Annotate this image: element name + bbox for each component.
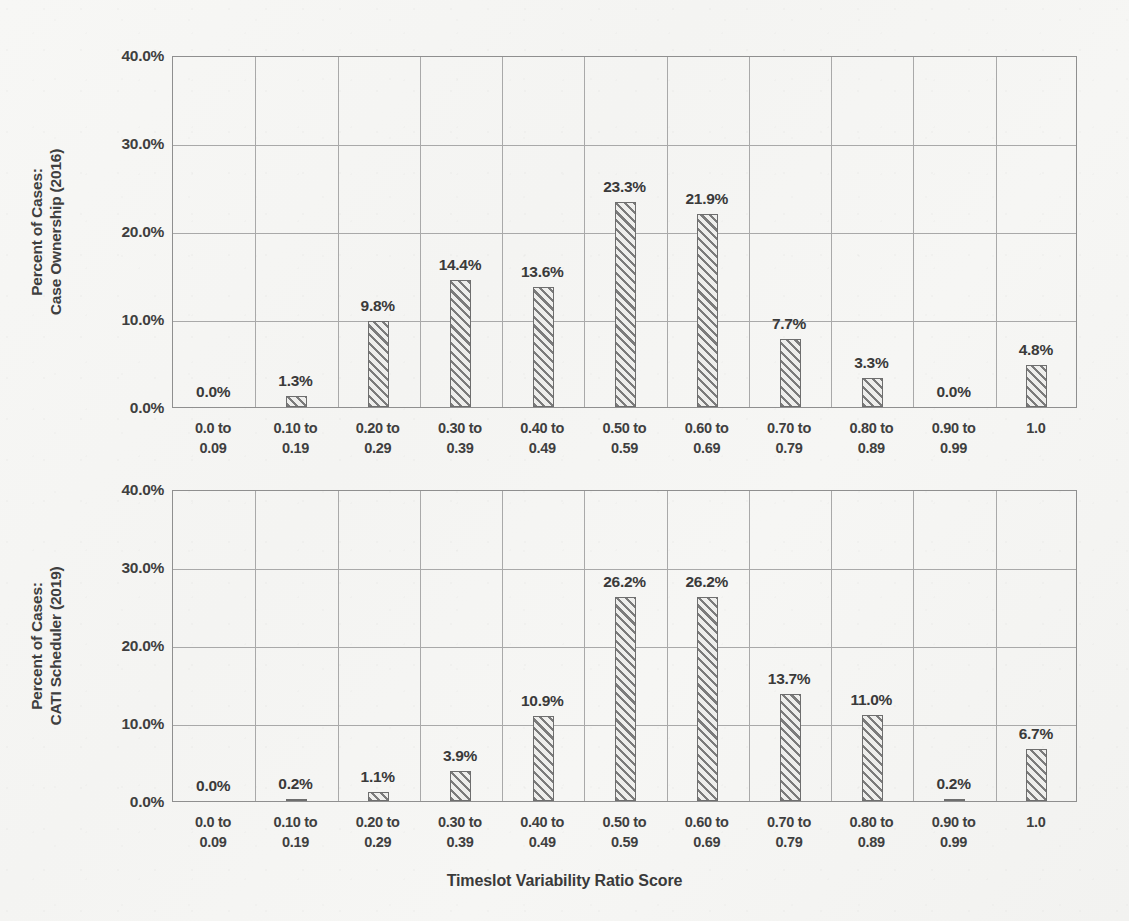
bar [862,378,883,407]
bar [862,715,883,801]
y-axis-tick-label: 20.0% [84,223,164,241]
bar [450,771,471,801]
x-axis-title: Timeslot Variability Ratio Score [0,872,1129,890]
bar-value-label: 6.7% [1019,725,1053,743]
gridline-vertical [420,491,421,801]
bar-value-label: 21.9% [686,190,728,208]
gridline-vertical [913,491,914,801]
bar [1026,749,1047,801]
bar-value-label: 11.0% [851,691,893,709]
figure-page: Percent of Cases: Case Ownership (2016) … [0,0,1129,921]
bar [533,287,554,407]
gridline-vertical [255,491,256,801]
bar-value-label: 0.0% [937,383,971,401]
y-axis-tick-label: 0.0% [84,793,164,811]
bar [1026,365,1047,407]
gridline-vertical [667,57,668,407]
bar-value-label: 4.8% [1019,341,1053,359]
bar-value-label: 26.2% [603,573,645,591]
bar-value-label: 10.9% [521,692,563,710]
gridline-vertical [255,57,256,407]
chart-case-ownership-2016: Percent of Cases: Case Ownership (2016) … [0,0,1129,475]
chart-cati-scheduler-2019: Percent of Cases: CATI Scheduler (2019) … [0,434,1129,921]
y-axis-tick-label: 40.0% [84,481,164,499]
bar [780,339,801,407]
gridline-vertical [584,57,585,407]
gridline-vertical [338,57,339,407]
gridline-vertical [831,57,832,407]
bar [286,396,307,407]
y-axis-tick-label: 30.0% [84,559,164,577]
gridline-vertical [749,57,750,407]
gridline-vertical [996,57,997,407]
bar-value-label: 13.6% [521,263,563,281]
bar [697,214,718,407]
bar-value-label: 1.1% [361,768,395,786]
gridline-vertical [831,491,832,801]
bar [450,280,471,407]
x-axis-tick-label: 1.0 [980,812,1092,832]
bar-value-label: 14.4% [439,256,481,274]
bar [615,202,636,407]
gridline-horizontal [173,145,1076,146]
gridline-vertical [749,491,750,801]
y-axis-title-chart-0: Percent of Cases: Case Ownership (2016) [27,82,65,382]
bar [615,597,636,801]
plot-area-chart-1 [172,490,1077,802]
gridline-horizontal [173,569,1076,570]
bar-value-label: 3.3% [854,354,888,372]
bar-value-label: 13.7% [768,670,810,688]
y-axis-tick-label: 0.0% [84,399,164,417]
bar-value-label: 26.2% [686,573,728,591]
gridline-vertical [667,491,668,801]
gridline-vertical [502,491,503,801]
y-axis-tick-label: 20.0% [84,637,164,655]
bar-value-label: 0.2% [937,775,971,793]
bar-value-label: 9.8% [361,297,395,315]
bar-value-label: 0.0% [196,777,230,795]
bar-value-label: 3.9% [443,747,477,765]
gridline-vertical [913,57,914,407]
bar-value-label: 7.7% [772,315,806,333]
y-axis-tick-label: 30.0% [84,135,164,153]
bar [944,799,965,802]
bar-value-label: 23.3% [603,178,645,196]
gridline-vertical [338,491,339,801]
bar-value-label: 1.3% [278,372,312,390]
plot-area-chart-0 [172,56,1077,408]
bar [286,799,307,802]
bar [368,321,389,407]
bar-value-label: 0.2% [278,775,312,793]
gridline-vertical [584,491,585,801]
bar-value-label: 0.0% [196,383,230,401]
y-axis-tick-label: 10.0% [84,311,164,329]
y-axis-title-chart-1: Percent of Cases: CATI Scheduler (2019) [27,496,65,796]
y-axis-tick-label: 40.0% [84,47,164,65]
gridline-vertical [420,57,421,407]
bar [368,792,389,801]
bar [533,716,554,801]
gridline-vertical [502,57,503,407]
gridline-vertical [996,491,997,801]
y-axis-tick-label: 10.0% [84,715,164,733]
bar [780,694,801,801]
bar [697,597,718,801]
